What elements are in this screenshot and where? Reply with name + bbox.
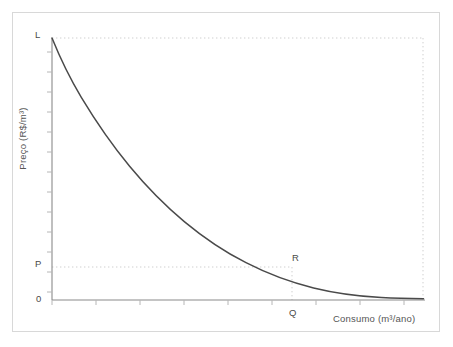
- axis-lines: [52, 38, 425, 300]
- figure-container: Preço (R$/m³) Consumo (m³/ano) L P 0 Q R: [0, 0, 453, 347]
- label-L: L: [35, 29, 40, 40]
- y-axis-ticks: [47, 52, 52, 292]
- label-P: P: [35, 258, 41, 269]
- label-Q: Q: [289, 307, 296, 318]
- demand-curve-line: [52, 38, 424, 299]
- x-axis-ticks: [52, 300, 404, 305]
- label-R: R: [292, 252, 299, 263]
- demand-curve-chart: [0, 0, 453, 347]
- y-axis-title: Preço (R$/m³): [17, 94, 28, 184]
- label-origin: 0: [36, 293, 41, 304]
- x-axis-title: Consumo (m³/ano): [333, 313, 415, 324]
- guide-lines: [52, 38, 423, 300]
